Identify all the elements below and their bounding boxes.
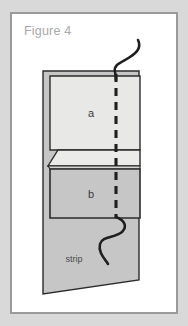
figure-diagram: a b strip: [12, 14, 180, 316]
sheet-a-shape: [50, 76, 140, 150]
strip-label: strip: [65, 254, 82, 264]
sheet-b-label: b: [88, 188, 94, 200]
figure-card: Figure 4 a b strip: [10, 12, 178, 314]
sheet-b-shape: [50, 169, 140, 218]
fold-flap-shape: [48, 150, 140, 166]
sheet-a-label: a: [88, 107, 95, 119]
